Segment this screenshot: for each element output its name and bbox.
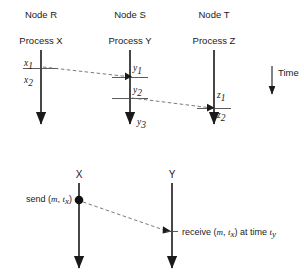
receive-event-label: receive (m, tx) at time ty	[182, 227, 276, 239]
send-text-prefix: send (	[26, 194, 51, 204]
send-event-dot	[75, 196, 84, 205]
process-label-z: Process Z	[193, 35, 236, 46]
message-arrow-x1-to-y1	[43, 67, 125, 76]
event-sub-y3: 3	[140, 120, 146, 130]
node-header-s: Node S	[114, 9, 146, 20]
process-label-y: Process Y	[108, 35, 152, 46]
send-event-label: send (m, tx)	[26, 194, 72, 206]
event-label-z1: z1	[216, 90, 225, 103]
event-sub-x2: 2	[28, 78, 33, 88]
bottom-message-arrow	[83, 202, 164, 230]
event-label-y3: y3	[136, 117, 146, 130]
receive-text-prefix: receive (	[182, 227, 217, 237]
node-header-t: Node T	[199, 9, 230, 20]
event-sub-x1: 1	[28, 61, 33, 71]
event-label-z2: z2	[216, 110, 226, 123]
receive-text-t2-sub: y	[271, 229, 276, 239]
bottom-process-name-y: Y	[169, 169, 176, 180]
event-label-x2: x2	[23, 75, 33, 88]
figure-canvas: Node R Node S Node T Process X Process Y…	[0, 0, 304, 280]
receive-text-mid: ) at time	[235, 227, 270, 237]
process-label-x: Process X	[19, 35, 63, 46]
bottom-message-arrowhead	[163, 226, 172, 233]
event-sub-y1: 1	[137, 66, 142, 76]
bottom-process-name-x: X	[76, 169, 83, 180]
event-sub-y2: 2	[137, 88, 142, 98]
diagram-svg: Node R Node S Node T Process X Process Y…	[0, 0, 304, 280]
message-arrowhead-y1	[125, 73, 132, 81]
event-label-y1: y1	[132, 63, 142, 76]
node-header-r: Node R	[25, 9, 57, 20]
time-axis-label: Time	[278, 67, 299, 78]
message-arrow-y2-to-z1	[132, 98, 207, 107]
send-text-close: )	[69, 194, 72, 204]
event-label-y2: y2	[132, 85, 142, 98]
event-sub-z1: 1	[221, 93, 226, 103]
event-sub-z2: 2	[221, 113, 226, 123]
